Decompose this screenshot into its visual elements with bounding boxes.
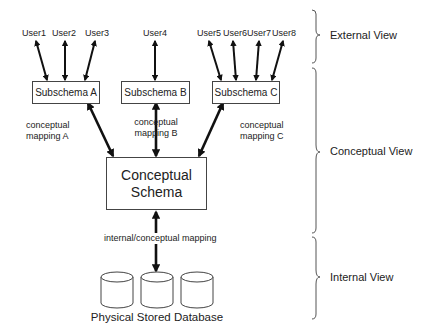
subschema-a-label: Subschema A — [35, 87, 97, 98]
internal-view-label: Internal View — [330, 272, 393, 283]
internal-mapping-label: internal/conceptual mapping — [103, 233, 218, 244]
user-label: User7 — [247, 29, 271, 38]
arrow-mapping-c — [199, 103, 223, 156]
user-label: User3 — [85, 29, 109, 38]
subschema-b-box: Subschema B — [121, 81, 190, 104]
external-view-label: External View — [330, 30, 397, 41]
brace-conceptual — [312, 68, 320, 233]
database-cylinders — [101, 272, 213, 308]
arrow-mapping-a — [88, 103, 113, 156]
database-cylinder-1 — [101, 272, 133, 308]
user-label: User4 — [143, 29, 167, 38]
user-label: User2 — [52, 29, 76, 38]
subschema-c-label: Subschema C — [215, 87, 278, 98]
arrow-user3 — [85, 41, 95, 80]
arrow-user7 — [256, 41, 259, 80]
arrow-user5 — [209, 41, 221, 80]
database-cylinder-3 — [181, 272, 213, 308]
mapping-c-label: conceptual mapping C — [240, 120, 284, 142]
conceptual-schema-box: Conceptual Schema — [106, 157, 207, 210]
braces — [312, 10, 320, 319]
user-label: User5 — [197, 29, 221, 38]
user-arrows — [36, 41, 283, 80]
database-cylinder-2 — [141, 272, 173, 308]
arrow-user6 — [233, 41, 236, 80]
subschema-b-label: Subschema B — [124, 87, 186, 98]
subschema-c-box: Subschema C — [212, 81, 280, 104]
diagram-canvas — [0, 0, 436, 334]
brace-internal — [312, 237, 320, 319]
user-label: User6 — [223, 29, 247, 38]
user-label: User8 — [272, 29, 296, 38]
arrow-user1 — [36, 41, 47, 80]
arrow-user8 — [272, 41, 283, 80]
subschema-a-box: Subschema A — [32, 81, 100, 104]
mapping-a-label: conceptual mapping A — [26, 120, 70, 142]
database-label: Physical Stored Database — [91, 312, 223, 324]
conceptual-view-label: Conceptual View — [330, 146, 412, 157]
brace-external — [312, 10, 320, 63]
mapping-b-label: conceptual mapping B — [134, 117, 178, 139]
user-label: User1 — [22, 29, 46, 38]
